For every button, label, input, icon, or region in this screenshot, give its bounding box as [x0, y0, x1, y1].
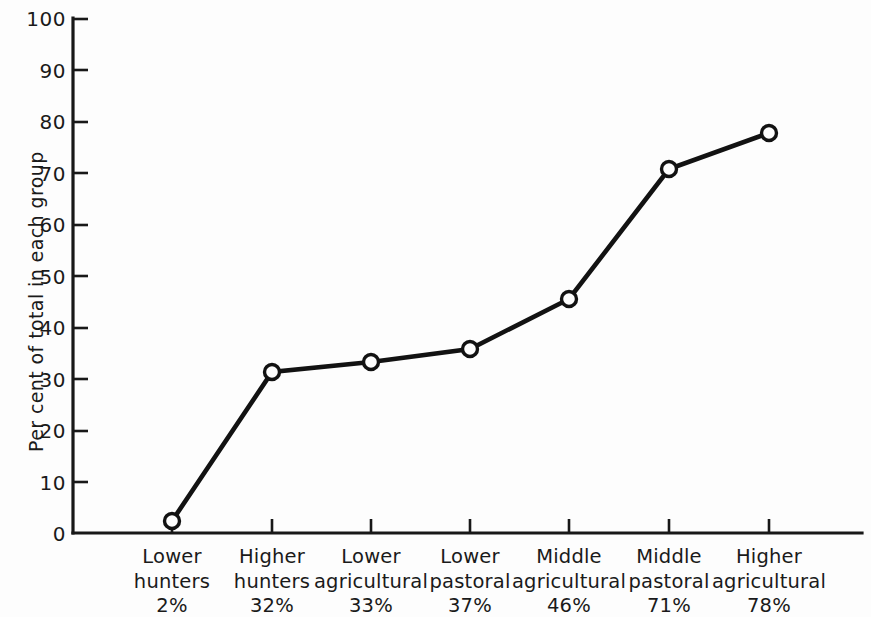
x-category-label-higher-agricultural: Higher agricultural 78% [712, 545, 826, 617]
x-category-value: 32% [250, 594, 294, 617]
x-category-line2: hunters [234, 570, 310, 593]
x-category-value: 2% [156, 594, 187, 617]
x-category-line1: Lower [142, 545, 202, 568]
x-category-line2: agricultural [512, 570, 626, 593]
data-point[interactable] [562, 292, 577, 307]
y-tick-label: 30 [40, 368, 66, 392]
y-tick-label: 60 [40, 213, 66, 237]
data-point[interactable] [762, 126, 777, 141]
line-chart: Per cent of total in each group 100 90 8… [0, 0, 871, 617]
y-tick-label: 90 [40, 59, 66, 83]
x-category-line2: pastoral [628, 570, 709, 593]
data-point[interactable] [463, 342, 478, 357]
y-tick-label: 40 [40, 316, 66, 340]
y-tick-label: 80 [40, 110, 66, 134]
y-axis-title: Per cent of total in each group [25, 151, 47, 452]
x-category-line2: agricultural [712, 570, 826, 593]
x-category-value: 78% [747, 594, 791, 617]
x-category-value: 33% [349, 594, 393, 617]
y-tick-label: 70 [40, 162, 66, 186]
y-tick-label: 0 [53, 522, 66, 546]
x-category-line1: Middle [536, 545, 602, 568]
x-category-line1: Lower [440, 545, 500, 568]
data-markers [165, 126, 777, 529]
x-category-line2: agricultural [314, 570, 428, 593]
x-category-line1: Middle [636, 545, 702, 568]
x-category-label-middle-pastoral: Middle pastoral 71% [628, 545, 709, 617]
x-category-line1: Higher [736, 545, 803, 568]
x-category-label-higher-hunters: Higher hunters 32% [234, 545, 310, 617]
y-tick-label: 100 [26, 7, 66, 31]
chart-page: Per cent of total in each group 100 90 8… [0, 0, 871, 617]
x-category-label-lower-agricultural: Lower agricultural 33% [314, 545, 428, 617]
x-category-line1: Higher [239, 545, 306, 568]
y-tick-label: 10 [40, 471, 66, 495]
x-category-line2: pastoral [429, 570, 510, 593]
x-category-value: 46% [547, 594, 591, 617]
y-tick-label: 20 [40, 419, 66, 443]
x-category-line1: Lower [341, 545, 401, 568]
x-axis-category-labels: Lower hunters 2% Higher hunters 32% Lowe… [134, 545, 826, 617]
x-category-label-lower-hunters: Lower hunters 2% [134, 545, 210, 617]
x-axis-ticks [172, 519, 769, 533]
data-point[interactable] [662, 162, 677, 177]
x-category-line2: hunters [134, 570, 210, 593]
y-axis-ticks [73, 19, 88, 482]
data-point[interactable] [364, 355, 379, 370]
y-tick-label: 50 [40, 265, 66, 289]
x-category-label-lower-pastoral: Lower pastoral 37% [429, 545, 510, 617]
x-category-label-middle-agricultural: Middle agricultural 46% [512, 545, 626, 617]
x-category-value: 71% [647, 594, 691, 617]
data-point[interactable] [265, 365, 280, 380]
data-series-line [172, 133, 769, 521]
x-category-value: 37% [448, 594, 492, 617]
data-point[interactable] [165, 514, 180, 529]
